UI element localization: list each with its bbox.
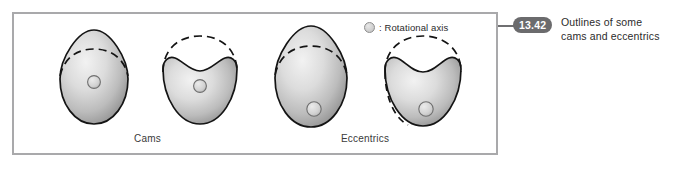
rotational-axis-icon — [419, 102, 433, 116]
figure-caption: Outlines of some cams and eccentrics — [561, 15, 683, 43]
figure-root: : Rotational axis Cams Eccentrics 13.42 … — [0, 0, 684, 172]
cam-dished-centered — [163, 36, 237, 124]
figure-number-badge: 13.42 — [513, 17, 552, 33]
diagram-panel: : Rotational axis Cams Eccentrics — [12, 12, 498, 155]
group-label-cams: Cams — [134, 133, 161, 144]
eccentric-egg-offset — [275, 26, 347, 127]
figure-caption-line-2: cams and eccentrics — [561, 29, 683, 43]
eccentric-dished-offset — [385, 36, 461, 126]
group-label-eccentrics: Eccentrics — [341, 133, 389, 144]
legend: : Rotational axis — [364, 22, 448, 33]
rotational-axis-icon — [88, 76, 101, 89]
rotational-axis-icon — [194, 80, 207, 93]
rotational-axis-circle-icon — [364, 22, 375, 33]
cam-egg-centered — [60, 30, 128, 124]
cam-profiles-drawing — [14, 14, 496, 153]
rotational-axis-icon — [307, 102, 321, 116]
figure-caption-line-1: Outlines of some — [561, 15, 683, 29]
legend-label: : Rotational axis — [379, 22, 448, 33]
